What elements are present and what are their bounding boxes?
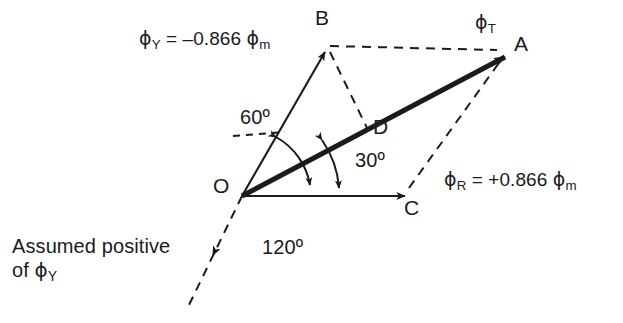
vector-diagram: B A C D O 60º 30º 120º ϕY = –0.866 ϕm ϕR… [0, 0, 623, 323]
note-line-2-prefix: of [12, 259, 35, 281]
note-phi-subscript: Y [48, 268, 57, 284]
point-label-b: B [315, 6, 329, 31]
point-label-d: D [373, 115, 388, 140]
point-label-c: C [404, 196, 419, 221]
phi-r-tail-subscript: m [565, 178, 576, 193]
phi-t-symbol: ϕ [475, 11, 488, 33]
phi-y-rest: = –0.866 [161, 28, 247, 49]
phi-r-rest: = +0.866 [466, 169, 553, 190]
equation-phi-y: ϕY = –0.866 ϕm [139, 27, 270, 53]
phi-r-symbol: ϕ [444, 168, 457, 190]
construction-line-bd [330, 52, 367, 128]
phi-y-tail-symbol: ϕ [247, 27, 260, 49]
note-line-2: of ϕY [12, 259, 170, 285]
phi-y-symbol: ϕ [139, 27, 152, 49]
equation-phi-t: ϕT [475, 11, 496, 37]
phi-y-tail-subscript: m [259, 37, 270, 52]
angle-label-120: 120º [262, 236, 303, 260]
assumed-positive-note: Assumed positive of ϕY [12, 235, 170, 284]
note-phi-symbol: ϕ [35, 258, 48, 282]
equation-phi-r: ϕR = +0.866 ϕm [444, 168, 577, 194]
assumed-positive-axis [188, 196, 242, 307]
angle-label-60: 60º [240, 106, 270, 130]
phi-t-subscript: T [488, 21, 496, 36]
phi-y-subscript: Y [152, 37, 161, 52]
construction-line-ba [330, 46, 497, 50]
angle-label-30: 30º [355, 149, 385, 173]
note-line-1: Assumed positive [12, 235, 170, 259]
phi-r-subscript: R [457, 178, 467, 193]
point-label-a: A [514, 32, 528, 57]
phi-r-tail-symbol: ϕ [553, 168, 566, 190]
point-label-o: O [213, 174, 229, 199]
